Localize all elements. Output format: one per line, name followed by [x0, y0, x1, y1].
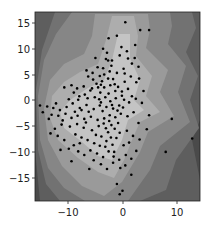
data-point: [96, 152, 99, 155]
data-point: [68, 98, 71, 101]
data-point: [74, 133, 77, 136]
data-point: [77, 150, 80, 153]
data-point: [115, 137, 118, 140]
data-point: [138, 138, 141, 141]
data-point: [109, 100, 112, 103]
data-point: [118, 158, 121, 161]
x-tick-label: 10: [171, 207, 184, 218]
data-point: [118, 132, 121, 135]
data-point: [107, 59, 110, 62]
data-point: [148, 114, 151, 117]
data-point: [120, 46, 123, 49]
data-point: [89, 149, 92, 152]
data-point: [127, 88, 130, 91]
data-point: [63, 86, 66, 89]
data-point: [102, 47, 105, 50]
data-point: [107, 131, 110, 134]
data-point: [120, 112, 123, 115]
data-point: [87, 75, 90, 78]
data-point: [116, 109, 119, 112]
data-point: [121, 94, 124, 97]
data-point: [54, 127, 57, 130]
x-axis: −10 0 10: [57, 201, 183, 218]
data-point: [123, 80, 126, 83]
data-point: [85, 121, 88, 124]
data-point: [100, 101, 103, 104]
data-point: [117, 122, 120, 125]
data-point: [85, 104, 88, 107]
data-point: [83, 154, 86, 157]
data-point: [80, 109, 83, 112]
data-point: [98, 98, 101, 101]
data-point: [114, 90, 117, 93]
data-point: [82, 85, 85, 88]
data-point: [125, 154, 128, 157]
data-point: [80, 136, 83, 139]
data-point: [100, 135, 103, 138]
data-point: [96, 66, 99, 69]
data-point: [105, 140, 108, 143]
data-point: [121, 189, 124, 192]
data-point: [127, 57, 130, 60]
data-point: [94, 96, 97, 99]
data-point: [138, 77, 141, 80]
data-point: [110, 124, 113, 127]
data-point: [93, 142, 96, 145]
data-point: [76, 115, 79, 118]
data-point: [103, 73, 106, 76]
data-point: [111, 104, 114, 107]
data-point: [92, 159, 95, 162]
data-point: [118, 193, 121, 196]
data-point: [122, 68, 125, 71]
data-point: [135, 98, 138, 101]
data-point: [59, 109, 62, 112]
data-point: [103, 117, 106, 120]
data-point: [96, 119, 99, 122]
data-point: [70, 84, 73, 87]
data-point: [39, 104, 42, 107]
data-point: [50, 114, 53, 117]
data-point: [119, 167, 122, 170]
data-point: [141, 102, 144, 105]
data-point: [126, 115, 129, 118]
data-point: [133, 57, 136, 60]
data-point: [99, 144, 102, 147]
data-point: [137, 65, 140, 68]
data-point: [59, 149, 62, 152]
data-point: [107, 77, 110, 80]
data-point: [115, 97, 118, 100]
data-point: [109, 84, 112, 87]
data-point: [70, 160, 73, 163]
data-point: [99, 75, 102, 78]
data-point: [94, 57, 97, 60]
x-tick-label: 0: [120, 207, 126, 218]
data-point: [122, 106, 125, 109]
data-point: [110, 136, 113, 139]
data-point: [88, 168, 91, 171]
data-point: [105, 106, 108, 109]
data-point: [86, 97, 89, 100]
data-point: [105, 127, 108, 130]
data-point: [128, 141, 131, 144]
data-point: [108, 120, 111, 123]
data-point: [76, 87, 79, 90]
data-point: [76, 123, 79, 126]
data-point: [139, 29, 142, 32]
data-point: [52, 107, 55, 110]
data-point: [114, 116, 117, 119]
data-point: [116, 72, 119, 75]
data-point: [74, 110, 77, 113]
data-point: [171, 118, 174, 121]
data-point: [112, 155, 115, 158]
data-point: [79, 107, 82, 110]
data-point: [124, 164, 127, 167]
data-point: [123, 72, 126, 75]
data-point: [134, 44, 137, 47]
data-point: [104, 96, 107, 99]
data-point: [99, 91, 102, 94]
scatter-contour-chart: 15 10 5 0 −5 −10 −15 −10 0 10: [0, 0, 214, 230]
data-point: [137, 122, 140, 125]
data-point: [87, 110, 90, 113]
data-point: [148, 29, 151, 32]
data-point: [112, 107, 115, 110]
